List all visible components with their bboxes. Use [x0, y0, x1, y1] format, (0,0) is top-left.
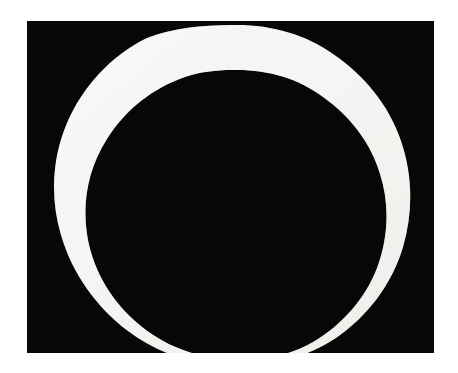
image-title: Ensō — hand-painted white circle on blac…	[0, 0, 1, 1]
subject-edge-quality: irregular, organic, hand-painted	[0, 0, 1, 1]
subject-shape: annulus	[0, 0, 1, 1]
image-medium: photograph of painted ring	[0, 0, 1, 1]
artwork-canvas: Ensō — hand-painted white circle on blac…	[0, 0, 458, 373]
painted-ring-graphic	[27, 21, 434, 353]
ring-texture	[27, 21, 434, 353]
photo-plate	[27, 21, 434, 353]
